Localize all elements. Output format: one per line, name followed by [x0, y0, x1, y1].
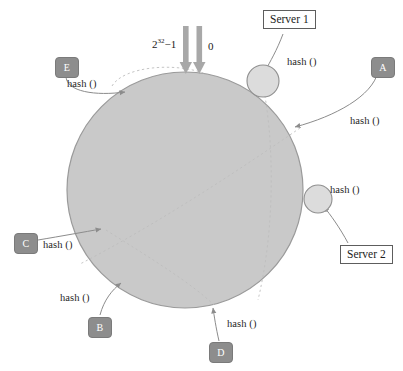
- connector-server-2: [324, 207, 348, 243]
- server-2-ring-node: [304, 185, 332, 213]
- hash-label-b: hash (): [60, 292, 90, 303]
- key-node-c[interactable]: C: [14, 233, 38, 254]
- ring-label-zero: 0: [208, 40, 214, 52]
- key-node-b[interactable]: B: [88, 317, 112, 338]
- key-node-d[interactable]: D: [209, 342, 233, 363]
- ring-label-max-hash: 232−1: [152, 38, 176, 50]
- arrow-zero-hash: [193, 26, 206, 74]
- hash-label-server-1: hash (): [287, 56, 317, 67]
- key-node-a[interactable]: A: [371, 57, 395, 78]
- hash-label-server-2: hash (): [330, 184, 360, 195]
- top-hash-range-arrows: [180, 26, 206, 74]
- consistent-hashing-diagram: 232−1 0 E A C B D hash () hash () hash (…: [0, 0, 403, 371]
- connector-b: [100, 283, 121, 315]
- server-2-box[interactable]: Server 2: [340, 245, 393, 264]
- hash-label-a: hash (): [350, 115, 380, 126]
- connector-d: [213, 308, 219, 341]
- hash-label-c: hash (): [43, 239, 73, 250]
- hash-ring: [67, 72, 303, 308]
- arrow-max-hash: [180, 26, 192, 74]
- key-node-e[interactable]: E: [55, 57, 79, 78]
- hash-label-d: hash (): [227, 318, 257, 329]
- server-1-box[interactable]: Server 1: [263, 10, 316, 29]
- server-1-ring-node: [247, 65, 279, 97]
- hash-label-e: hash (): [67, 78, 97, 89]
